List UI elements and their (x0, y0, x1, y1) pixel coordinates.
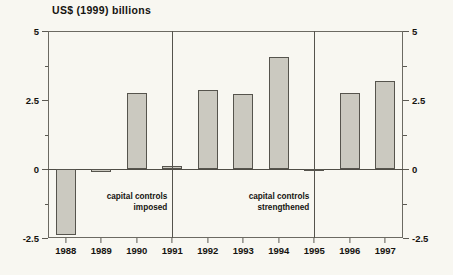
chart-axis-title: US$ (1999) billions (52, 4, 151, 16)
x-axis-tick-1996 (349, 238, 350, 243)
y-axis-minor-tick-left (45, 66, 49, 67)
y-axis-tick-left (42, 238, 48, 239)
y-axis-tick-right (403, 238, 409, 239)
x-axis-label-1991: 1991 (162, 245, 183, 256)
x-axis-label-1995: 1995 (304, 245, 325, 256)
y-axis-minor-tick-right (403, 66, 407, 67)
y-axis-label-right: 2.5 (412, 95, 425, 106)
y-axis-label-right: -2.5 (412, 233, 428, 244)
y-axis-minor-tick-left (45, 135, 49, 136)
x-axis-label-1990: 1990 (126, 245, 147, 256)
y-axis-tick-left (42, 100, 48, 101)
annotation-line-1: capital controls (107, 192, 168, 203)
y-axis-label-right: 5 (412, 26, 417, 37)
x-axis-tick-1997 (385, 238, 386, 243)
x-axis-tick-1990 (136, 238, 137, 243)
bar-1990 (127, 93, 147, 169)
period-divider-1995 (314, 31, 315, 238)
bar-1988 (56, 169, 76, 235)
x-axis-tick-1988 (65, 238, 66, 243)
x-axis-tick-1993 (243, 238, 244, 243)
plot-area: 552.52.500-2.5-2.51988198919901991199219… (48, 31, 403, 238)
y-axis-label-left: 0 (34, 164, 39, 175)
x-axis-tick-1992 (207, 238, 208, 243)
bar-1993 (233, 94, 253, 169)
x-axis-label-1993: 1993 (233, 245, 254, 256)
annotation-capital-controls-imposed: capital controlsimposed (107, 192, 168, 213)
y-axis-label-left: 2.5 (26, 95, 39, 106)
y-axis-tick-right (403, 31, 409, 32)
bar-1989 (91, 169, 111, 172)
annotation-line-2: strengthened (249, 203, 310, 214)
x-axis-tick-1994 (278, 238, 279, 243)
y-axis-tick-right (403, 100, 409, 101)
x-axis-tick-1989 (101, 238, 102, 243)
period-divider-1991 (172, 31, 173, 238)
y-axis-label-right: 0 (412, 164, 417, 175)
x-axis-label-1996: 1996 (339, 245, 360, 256)
y-axis-tick-left (42, 31, 48, 32)
y-axis-tick-left (42, 169, 48, 170)
bar-1994 (269, 57, 289, 169)
y-axis-label-left: 5 (34, 26, 39, 37)
x-axis-label-1989: 1989 (91, 245, 112, 256)
bar-chart: US$ (1999) billions 552.52.500-2.5-2.519… (0, 0, 453, 275)
x-axis-label-1994: 1994 (268, 245, 289, 256)
x-axis-label-1988: 1988 (55, 245, 76, 256)
bar-1997 (375, 81, 395, 169)
annotation-line-1: capital controls (249, 192, 310, 203)
x-axis-tick-1995 (314, 238, 315, 243)
annotation-capital-controls-strengthened: capital controlsstrengthened (249, 192, 310, 213)
bar-1996 (340, 93, 360, 169)
y-axis-tick-right (403, 169, 409, 170)
y-axis-minor-tick-left (45, 204, 49, 205)
x-axis-tick-1991 (172, 238, 173, 243)
annotation-line-2: imposed (107, 203, 168, 214)
x-axis-label-1992: 1992 (197, 245, 218, 256)
y-axis-label-left: -2.5 (23, 233, 39, 244)
x-axis-label-1997: 1997 (375, 245, 396, 256)
bar-1992 (198, 90, 218, 169)
y-axis-minor-tick-right (403, 204, 407, 205)
y-axis-minor-tick-right (403, 135, 407, 136)
